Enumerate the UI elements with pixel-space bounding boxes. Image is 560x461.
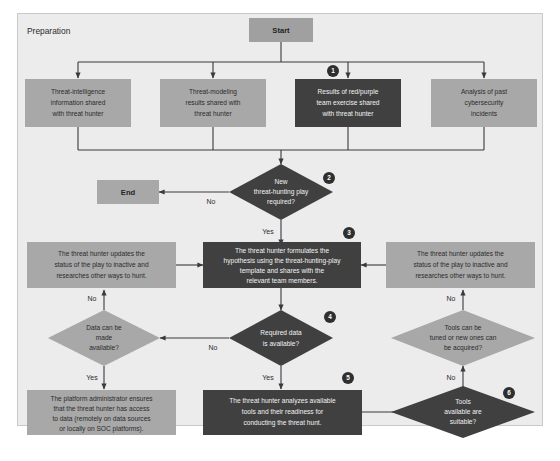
analyze-tools-line-2: tools and their readiness for (242, 408, 324, 415)
threat-modeling-line-1: Threat-modeling (189, 88, 237, 96)
new-play-required-line-3: required? (267, 198, 295, 206)
node-threat-modeling[interactable]: Threat-modeling results shared with thre… (160, 79, 266, 127)
data-can-be-made-line-3: available? (89, 344, 119, 351)
update-status-right-line-3: researches other ways to hunt. (415, 272, 505, 280)
frame-title: Preparation (27, 26, 71, 36)
step-badge-5: 5 (342, 372, 354, 384)
step-badge-4: 4 (324, 311, 336, 323)
platform-admin-line-4: or locally on SOC platforms). (59, 425, 143, 433)
step-badge-6: 6 (503, 387, 515, 399)
formulate-hypothesis-line-3: template and shares with the (240, 267, 325, 275)
formulate-hypothesis-line-1: The threat hunter formulates the (235, 247, 330, 254)
past-incidents-line-3: incidents (471, 110, 498, 117)
step-badge-number: 2 (327, 174, 331, 181)
analyze-tools-line-3: conducting the threat hunt. (243, 419, 321, 427)
platform-admin-line-3: to data (remotely on data sources (52, 415, 151, 423)
edge-label-yes-to-hypothesis: Yes (262, 228, 274, 235)
step-badge-3: 3 (343, 227, 355, 239)
node-formulate-hypothesis[interactable]: The threat hunter formulates the hypothe… (203, 242, 361, 288)
red-purple-team-line-2: team exercise shared (316, 99, 379, 106)
platform-admin-line-2: that the threat hunter has access (53, 405, 150, 412)
edge-label-no-required-data: No (209, 344, 218, 351)
update-status-left-line-3: researches other ways to hunt. (56, 272, 146, 280)
update-status-right-line-2: status of the play to inactive and (413, 261, 508, 269)
update-status-left-line-2: status of the play to inactive and (54, 261, 149, 269)
node-analyze-tools[interactable]: The threat hunter analyzes available too… (203, 390, 362, 435)
edge-label-no-tools-tuned: No (447, 295, 456, 302)
edge-label-yes-required-data: Yes (262, 374, 274, 381)
red-purple-team-line-1: Results of red/purple (318, 88, 379, 96)
threat-modeling-line-2: results shared with (186, 99, 241, 106)
tools-suitable-line-3: suitable? (450, 418, 477, 425)
node-start[interactable]: Start (249, 18, 313, 42)
data-can-be-made-line-1: Data can be (86, 324, 122, 331)
node-update-status-right[interactable]: The threat hunter updates the status of … (386, 242, 535, 288)
flowchart-svg: Preparation (0, 0, 560, 461)
edge-label-no-to-end: No (207, 198, 216, 205)
step-badge-number: 1 (331, 67, 335, 74)
tools-tuned-line-1: Tools can be (444, 324, 481, 331)
step-badge-1: 1 (327, 65, 339, 77)
flowchart-container: Preparation (0, 0, 560, 461)
node-past-incidents[interactable]: Analysis of past cybersecurity incidents (431, 79, 537, 127)
node-platform-administrator[interactable]: The platform administrator ensures that … (27, 390, 176, 435)
required-data-line-1: Required data (260, 329, 302, 337)
step-badge-number: 5 (346, 374, 350, 381)
tools-tuned-line-2: tuned or new ones can (430, 334, 497, 341)
tools-suitable-line-1: Tools (455, 398, 471, 405)
threat-intelligence-line-3: with threat hunter (52, 110, 105, 117)
threat-intelligence-line-1: Threat-intelligence (51, 88, 106, 96)
past-incidents-line-2: cybersecurity (465, 99, 505, 107)
end-label: End (121, 188, 136, 197)
platform-admin-line-1: The platform administrator ensures (50, 395, 153, 403)
edge-label-no-data-can-be-made: No (88, 295, 97, 302)
step-badge-number: 4 (328, 313, 332, 320)
required-data-line-2: is available? (263, 340, 300, 347)
tools-suitable-line-2: available are (444, 408, 482, 415)
threat-intelligence-line-2: information shared (51, 99, 106, 106)
start-label: Start (272, 26, 290, 35)
past-incidents-line-1: Analysis of past (461, 88, 507, 96)
step-badge-number: 6 (507, 389, 511, 396)
node-red-purple-team[interactable]: Results of red/purple team exercise shar… (295, 79, 401, 127)
red-purple-team-line-3: with threat hunter (322, 110, 375, 117)
threat-modeling-line-3: threat hunter (194, 110, 232, 117)
update-status-left-line-1: The threat hunter updates the (58, 250, 145, 258)
data-can-be-made-line-2: made (96, 334, 113, 341)
node-threat-intelligence[interactable]: Threat-intelligence information shared w… (25, 79, 131, 127)
node-end[interactable]: End (97, 180, 159, 204)
analyze-tools-line-1: The threat hunter analyzes available (229, 397, 336, 405)
formulate-hypothesis-line-2: hypothesis using the threat-hunting-play (224, 257, 342, 265)
node-update-status-left[interactable]: The threat hunter updates the status of … (27, 242, 176, 288)
new-play-required-line-1: New (274, 178, 287, 185)
edge-label-no-tools-suitable: No (447, 374, 456, 381)
update-status-right-line-1: The threat hunter updates the (417, 250, 504, 258)
edge-label-yes-data-can-be-made: Yes (86, 374, 98, 381)
step-badge-number: 3 (347, 229, 351, 236)
step-badge-2: 2 (323, 172, 335, 184)
new-play-required-line-2: threat-hunting play (254, 188, 309, 196)
tools-tuned-line-3: be acquired? (444, 344, 482, 352)
formulate-hypothesis-line-4: relevant team members. (246, 277, 317, 284)
